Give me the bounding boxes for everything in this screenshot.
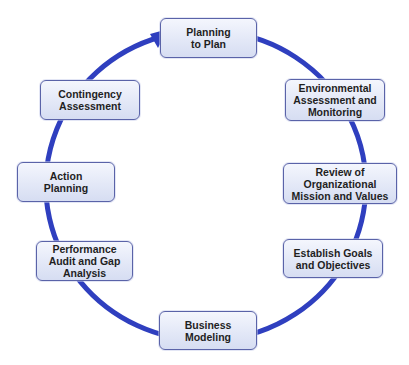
node-label: Business Modeling — [185, 319, 232, 343]
node-planning-to-plan: Planning to Plan — [160, 18, 257, 58]
node-label: Review of Organizational Mission and Val… — [292, 166, 389, 202]
node-establish-goals: Establish Goals and Objectives — [283, 239, 383, 278]
node-performance-audit: Performance Audit and Gap Analysis — [36, 241, 133, 281]
node-contingency-assessment: Contingency Assessment — [40, 80, 140, 120]
node-label: Contingency Assessment — [58, 88, 122, 112]
node-environmental-assessment: Environmental Assessment and Monitoring — [285, 79, 385, 121]
node-label: Action Planning — [44, 170, 88, 194]
node-business-modeling: Business Modeling — [159, 311, 257, 350]
node-review-mission: Review of Organizational Mission and Val… — [283, 163, 397, 204]
node-label: Planning to Plan — [186, 26, 230, 50]
node-action-planning: Action Planning — [17, 162, 115, 202]
node-label: Performance Audit and Gap Analysis — [49, 243, 121, 279]
node-label: Environmental Assessment and Monitoring — [293, 82, 376, 118]
strategic-planning-cycle-diagram: Planning to Plan Environmental Assessmen… — [0, 0, 409, 365]
node-label: Establish Goals and Objectives — [294, 247, 373, 271]
